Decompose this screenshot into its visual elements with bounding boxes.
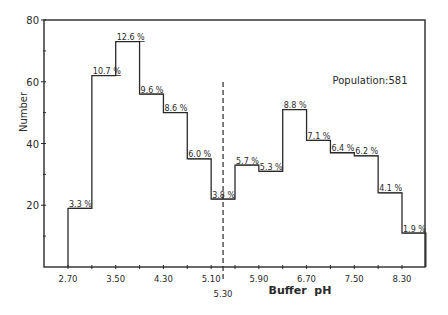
bar-percent-label: 6.4 % [331,144,354,153]
bar-percent-label: 5.3 % [260,163,283,172]
x-axis-label: Buffer pH [269,284,332,297]
plot-border [44,20,425,267]
bar-percent-label: 3.8 % [212,191,235,200]
y-tick-label: 80 [26,15,39,26]
x-tick-label: 8.30 [393,274,412,284]
x-tick-label: 4.30 [154,274,173,284]
bar-percent-label: 8.6 % [164,104,187,113]
plot-frame [44,20,425,267]
bar-percent-label: 6.0 % [188,150,211,159]
x-tick-label: 5.90 [249,274,268,284]
y-tick-label: 60 [26,77,39,88]
bar-percent-label: 7.1 % [308,132,331,141]
bar-percent-label: 6.2 % [355,147,378,156]
bar-percent-label: 4.1 % [379,184,402,193]
y-tick-label: 20 [26,200,39,211]
x-tick-label: 2.70 [59,274,78,284]
bar-percent-label: 10.7 % [93,67,121,76]
population-annotation: Population:581 [333,75,408,86]
y-axis-label: Number [18,91,29,132]
bar-percent-label: 3.3 % [69,200,92,209]
x-tick-label: 6.70 [297,274,316,284]
bar-percent-label: 5.7 % [236,157,259,166]
bar-percent-label: 8.8 % [284,101,307,110]
x-axis: 2.703.504.305.105.906.707.508.30 [59,265,412,284]
y-axis: 20406080 [26,15,46,236]
bar-percent-label: 1.9 % [403,225,426,234]
bar-percent-label: 12.6 % [117,33,145,42]
divider-label: 5.30 [214,289,233,299]
histogram-bars: 3.3 %10.7 %12.6 %9.6 %8.6 %6.0 %3.8 %5.7… [68,33,426,267]
x-tick-label: 3.50 [106,274,125,284]
bar-percent-label: 9.6 % [141,86,164,95]
x-tick-label: 5.10 [202,274,221,284]
y-tick-label: 40 [26,139,39,150]
histogram-chart: 3.3 %10.7 %12.6 %9.6 %8.6 %6.0 %3.8 %5.7… [0,0,448,315]
x-tick-label: 7.50 [345,274,364,284]
